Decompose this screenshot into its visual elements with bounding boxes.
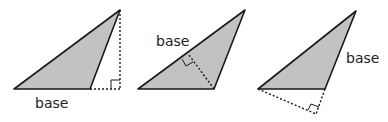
triangle-3-base-extension <box>316 89 325 114</box>
triangle-1-shape <box>14 10 120 89</box>
triangle-2-shape <box>138 10 245 89</box>
triangle-2-base-label: base <box>156 33 189 49</box>
triangle-1: base <box>14 10 120 111</box>
triangle-3-shape <box>258 11 356 89</box>
triangle-3-base-label: base <box>346 50 379 66</box>
triangle-3-height-line <box>258 89 316 114</box>
triangle-3: base <box>258 11 379 114</box>
triangle-2: base <box>138 10 245 89</box>
triangle-1-right-angle-marker <box>111 80 120 89</box>
triangle-bases-diagram: base base base <box>0 0 388 122</box>
triangle-1-base-label: base <box>35 95 68 111</box>
